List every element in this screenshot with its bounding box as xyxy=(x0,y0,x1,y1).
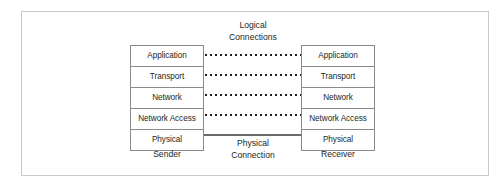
sender-layer-network-access: Network Access xyxy=(131,109,203,130)
logical-connections-label-line1: Logical xyxy=(203,20,303,32)
receiver-layer-physical: Physical xyxy=(302,130,374,150)
receiver-layer-application: Application xyxy=(302,46,374,67)
physical-connection-label-line2: Connection xyxy=(203,150,303,162)
receiver-protocol-stack: Application Transport Network Network Ac… xyxy=(301,45,375,151)
logical-connection-line-application xyxy=(205,54,301,56)
protocol-stack-diagram: Logical Connections Physical Connection … xyxy=(0,0,502,187)
sender-layer-application: Application xyxy=(131,46,203,67)
sender-caption: Sender xyxy=(130,149,204,159)
physical-connection-line xyxy=(204,134,302,136)
sender-layer-transport: Transport xyxy=(131,67,203,88)
logical-connections-label-line2: Connections xyxy=(203,32,303,44)
logical-connections-label: Logical Connections xyxy=(203,20,303,43)
logical-connection-line-network-access xyxy=(205,114,301,116)
receiver-layer-transport: Transport xyxy=(302,67,374,88)
sender-layer-network: Network xyxy=(131,88,203,109)
sender-layer-physical: Physical xyxy=(131,130,203,150)
receiver-layer-network-access: Network Access xyxy=(302,109,374,130)
logical-connection-line-network xyxy=(205,94,301,96)
receiver-caption: Receiver xyxy=(301,149,375,159)
physical-connection-label-line1: Physical xyxy=(203,138,303,150)
receiver-layer-network: Network xyxy=(302,88,374,109)
logical-connection-line-transport xyxy=(205,74,301,76)
physical-connection-label: Physical Connection xyxy=(203,138,303,161)
sender-protocol-stack: Application Transport Network Network Ac… xyxy=(130,45,204,151)
